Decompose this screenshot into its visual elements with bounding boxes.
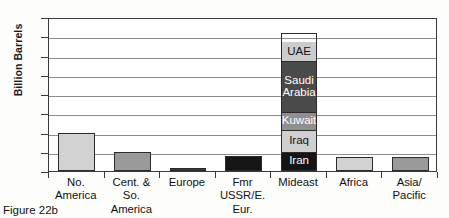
- bar: [225, 156, 262, 171]
- y-axis-tick-mark: [41, 172, 48, 173]
- bar: [336, 157, 373, 171]
- y-axis-title: Billion Barrels: [12, 0, 24, 120]
- y-axis-tick-mark: [41, 57, 48, 58]
- oil-reserves-bar-chart: Billion Barrels 010020030040050060070080…: [0, 0, 449, 218]
- stacked-bar: IranIraqKuwaitSaudi ArabiaUAE: [281, 33, 318, 171]
- gridline: [49, 38, 436, 39]
- bar: [58, 133, 95, 172]
- x-axis-category-label: Mideast: [270, 176, 326, 189]
- x-axis-category-label: Europe: [159, 176, 215, 189]
- y-axis-tick-mark: [41, 95, 48, 96]
- bar: [114, 152, 151, 171]
- gridline: [49, 77, 436, 78]
- y-axis-tick-mark: [41, 18, 48, 19]
- x-axis-category-label: No. America: [48, 176, 104, 203]
- x-axis-tick-mark: [437, 172, 438, 178]
- bar-segment-label: Iraq: [282, 131, 317, 153]
- bar-segment-label: Saudi Arabia: [282, 62, 317, 113]
- gridline: [49, 96, 436, 97]
- plot-area: IranIraqKuwaitSaudi ArabiaUAE: [48, 18, 437, 172]
- x-axis-category-label: Fmr USSR/E. Eur.: [215, 176, 271, 216]
- y-axis-tick-mark: [41, 153, 48, 154]
- x-axis-category-label: Cent. & So. America: [104, 176, 160, 216]
- x-axis-category-label: Africa: [326, 176, 382, 189]
- y-axis-tick-mark: [41, 37, 48, 38]
- y-axis-tick-mark: [41, 134, 48, 135]
- bar: [170, 168, 207, 171]
- y-axis-tick-mark: [41, 76, 48, 77]
- y-axis-tick-mark: [41, 114, 48, 115]
- bar-segment-label: UAE: [282, 42, 317, 61]
- bar-segment-label: Iran: [282, 153, 317, 170]
- gridline: [49, 135, 436, 136]
- bar: [392, 157, 429, 171]
- gridline: [49, 115, 436, 116]
- x-axis-category-label: Asia/ Pacific: [381, 176, 437, 203]
- gridline: [49, 154, 436, 155]
- figure-caption: Figure 22b: [3, 204, 58, 216]
- bar-segment-label: Kuwait: [282, 113, 317, 131]
- gridline: [49, 58, 436, 59]
